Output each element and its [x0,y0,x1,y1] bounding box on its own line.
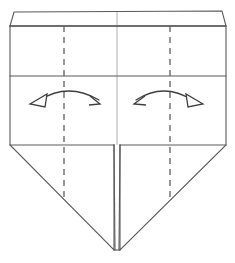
panel-fill-top-strip [10,11,226,26]
origami-figure-svg [0,0,235,263]
panel-fill-upper [10,26,226,76]
origami-diagram [0,0,235,263]
panel-fill-middle [10,76,226,145]
